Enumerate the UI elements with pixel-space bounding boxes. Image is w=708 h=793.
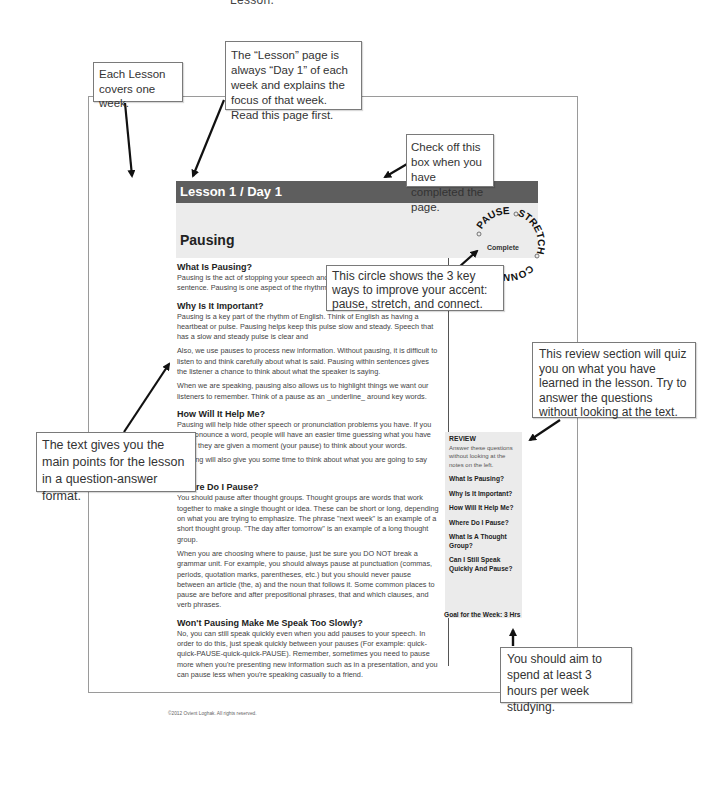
review-question: Can I Still Speak Quickly And Pause? <box>449 556 518 573</box>
section-paragraph: Pausing is a key part of the rhythm of E… <box>177 312 439 343</box>
review-heading: REVIEW <box>449 435 518 444</box>
section-heading: Won't Pausing Make Me Speak Too Slowly? <box>177 618 439 629</box>
section-paragraph: Pausing will help hide other speech or p… <box>177 420 439 451</box>
review-question: Why Is It Important? <box>449 490 518 499</box>
section-paragraph: When you are choosing where to pause, ju… <box>177 549 439 611</box>
callout-circle: This circle shows the 3 key ways to impr… <box>326 265 504 311</box>
review-question: What Is Pausing? <box>449 475 518 484</box>
lesson-text: What Is Pausing? Pausing is the act of s… <box>177 262 439 684</box>
section-paragraph: No, you can still speak quickly even whe… <box>177 629 439 680</box>
review-instructions: Answer these questions without looking a… <box>449 444 518 470</box>
weekly-goal: Goal for the Week: 3 Hrs <box>444 611 520 618</box>
review-question: What Is A Thought Group? <box>449 533 518 550</box>
callout-day-one: The “Lesson” page is always “Day 1” of e… <box>225 41 362 110</box>
section-heading: Where Do I Pause? <box>177 482 439 493</box>
section-paragraph: Pausing will also give you some time to … <box>177 455 439 476</box>
callout-text: The text gives you the main points for t… <box>36 432 196 492</box>
top-caption-cut: Lesson. <box>230 0 274 7</box>
review-question: Where Do I Pause? <box>449 519 518 528</box>
circle-word-pause: PAUSE <box>474 205 510 231</box>
review-section: REVIEW Answer these questions without lo… <box>445 432 522 618</box>
copyright: ©2012 Ovient Loghak. All rights reserved… <box>168 711 257 716</box>
callout-review: This review section will quiz you on wha… <box>532 342 696 418</box>
callout-complete-box: Check off this box when you have complet… <box>406 134 494 187</box>
section-paragraph: When we are speaking, pausing also allow… <box>177 381 439 402</box>
svg-text:PAUSE: PAUSE <box>474 205 510 231</box>
svg-text:STRETCH: STRETCH <box>517 207 548 255</box>
review-question: How Will It Help Me? <box>449 504 518 513</box>
section-paragraph: Also, we use pauses to process new infor… <box>177 346 439 377</box>
circle-word-stretch: STRETCH <box>517 207 548 255</box>
callout-goal: You should aim to spend at least 3 hours… <box>500 647 632 703</box>
section-heading: How Will It Help Me? <box>177 409 439 420</box>
callout-lesson-week: Each Lesson covers one week. <box>93 62 183 102</box>
page-title: Pausing <box>180 232 234 248</box>
section-paragraph: You should pause after thought groups. T… <box>177 493 439 544</box>
